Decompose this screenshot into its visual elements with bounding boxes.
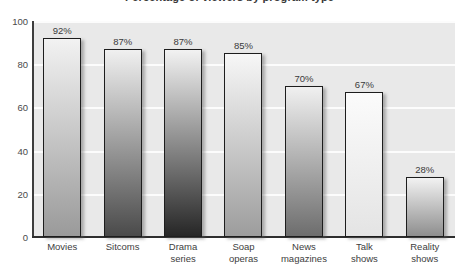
bar-slot: 92% bbox=[32, 21, 92, 237]
bar bbox=[224, 53, 262, 237]
bar bbox=[164, 49, 202, 237]
x-axis-category-label: Realityshows bbox=[395, 241, 455, 265]
bar bbox=[285, 86, 323, 237]
bar-slot: 67% bbox=[334, 21, 394, 237]
bar-value-label: 67% bbox=[334, 79, 394, 90]
bar-slot: 87% bbox=[153, 21, 213, 237]
x-axis-category-label: Soapoperas bbox=[213, 241, 273, 265]
category-label-line: series bbox=[153, 253, 213, 265]
bar-chart-figure: Percentage of viewers by program type 02… bbox=[0, 0, 459, 275]
category-label-line: Drama bbox=[153, 241, 213, 253]
category-label-line: Movies bbox=[32, 241, 92, 253]
bar bbox=[43, 38, 81, 237]
y-axis-tick-label: 40 bbox=[2, 145, 28, 156]
category-label-line: News bbox=[274, 241, 334, 253]
category-label-line: Reality bbox=[395, 241, 455, 253]
y-axis-tick-label: 80 bbox=[2, 59, 28, 70]
y-axis-tick-label: 20 bbox=[2, 188, 28, 199]
bar-slot: 28% bbox=[395, 21, 455, 237]
category-label-line: operas bbox=[213, 253, 273, 265]
chart-title: Percentage of viewers by program type bbox=[0, 0, 459, 3]
category-label-line: shows bbox=[395, 253, 455, 265]
x-axis-category-label: Sitcoms bbox=[92, 241, 152, 253]
category-labels: MoviesSitcomsDramaseriesSoapoperasNewsma… bbox=[32, 241, 455, 275]
bar-value-label: 92% bbox=[32, 25, 92, 36]
x-axis-category-label: Talkshows bbox=[334, 241, 394, 265]
category-label-line: Sitcoms bbox=[92, 241, 152, 253]
x-axis-category-label: Dramaseries bbox=[153, 241, 213, 265]
category-label-line: shows bbox=[334, 253, 394, 265]
category-label-line: magazines bbox=[274, 253, 334, 265]
bar-slot: 87% bbox=[92, 21, 152, 237]
bar-value-label: 70% bbox=[274, 73, 334, 84]
bar-slot: 70% bbox=[274, 21, 334, 237]
bars-layer: 92%87%87%85%70%67%28% bbox=[32, 21, 455, 237]
y-axis-tick-label: 0 bbox=[2, 232, 28, 243]
bar bbox=[345, 92, 383, 237]
category-label-line: Soap bbox=[213, 241, 273, 253]
bar-value-label: 85% bbox=[213, 40, 273, 51]
category-label-line: Talk bbox=[334, 241, 394, 253]
bar bbox=[406, 177, 444, 237]
bar bbox=[104, 49, 142, 237]
bar-value-label: 87% bbox=[92, 36, 152, 47]
x-axis-category-label: Movies bbox=[32, 241, 92, 253]
bar-slot: 85% bbox=[213, 21, 273, 237]
bar-value-label: 87% bbox=[153, 36, 213, 47]
x-axis-category-label: Newsmagazines bbox=[274, 241, 334, 265]
y-axis-ticks: 020406080100 bbox=[0, 21, 28, 237]
y-axis-tick-label: 60 bbox=[2, 102, 28, 113]
y-axis-tick-label: 100 bbox=[2, 16, 28, 27]
bar-value-label: 28% bbox=[395, 164, 455, 175]
